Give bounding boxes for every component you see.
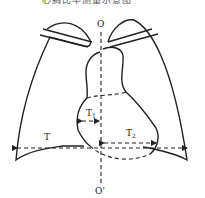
label-o-prime: O' bbox=[95, 186, 105, 196]
heart-dashed-bottom bbox=[90, 146, 150, 159]
label-o: O bbox=[97, 19, 104, 29]
label-t2-sub: 2 bbox=[132, 132, 136, 139]
left-lung-outline bbox=[16, 23, 91, 160]
cardiothoracic-diagram: O O' T T 1 T 2 bbox=[0, 0, 205, 198]
heart-left-border bbox=[77, 52, 100, 146]
heart-dashed-top bbox=[87, 92, 126, 98]
right-clavicle bbox=[108, 29, 158, 47]
label-t: T bbox=[44, 132, 50, 142]
label-t1-sub: 1 bbox=[92, 112, 96, 119]
right-lung-outline bbox=[108, 20, 187, 160]
